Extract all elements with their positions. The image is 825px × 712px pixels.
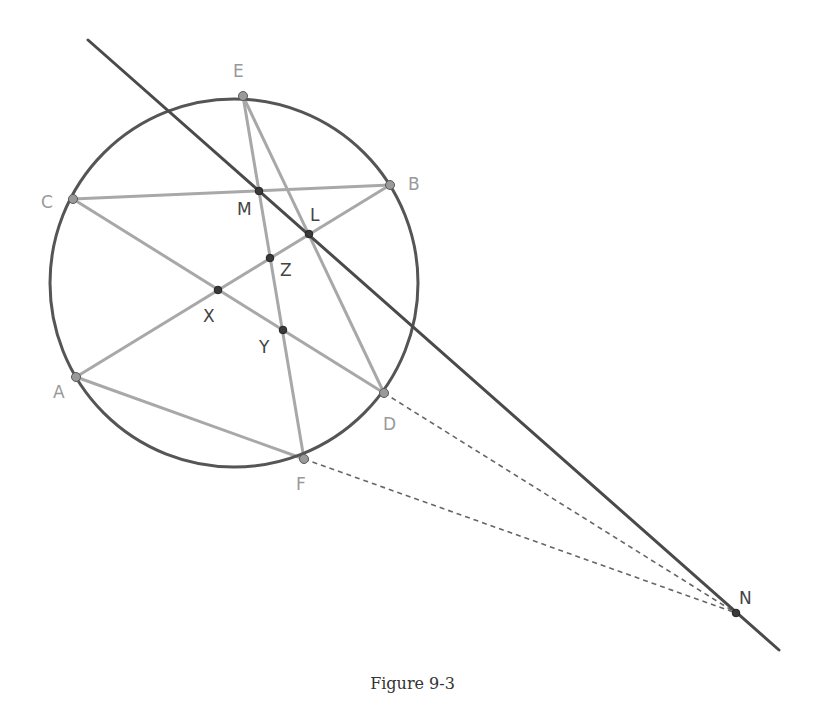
figure-caption: Figure 9-3	[0, 674, 825, 693]
label-X: X	[203, 306, 215, 326]
dashed-segment-DN	[384, 393, 736, 613]
line-MLN	[88, 40, 779, 650]
dashed-segments-group	[304, 393, 736, 613]
label-N: N	[739, 588, 752, 608]
dashed-segment-FN	[304, 459, 736, 613]
label-B: B	[408, 174, 420, 194]
point-D	[380, 389, 389, 398]
point-L	[305, 230, 313, 238]
geometry-figure: EBCMLZXYADFN	[0, 0, 825, 712]
label-A: A	[53, 382, 65, 402]
point-B	[386, 181, 395, 190]
point-N	[732, 609, 740, 617]
label-C: C	[41, 192, 53, 212]
point-X	[214, 286, 222, 294]
chords-group	[73, 96, 390, 459]
point-Y	[279, 326, 287, 334]
point-E	[239, 92, 248, 101]
point-F	[300, 455, 309, 464]
chord-AB	[76, 185, 390, 377]
label-M: M	[237, 199, 252, 219]
chord-EF	[243, 96, 304, 459]
chord-CB	[73, 185, 390, 199]
point-C	[69, 195, 78, 204]
label-E: E	[233, 61, 244, 81]
label-D: D	[383, 414, 396, 434]
point-Z	[266, 254, 274, 262]
point-A	[72, 373, 81, 382]
label-L: L	[310, 205, 320, 225]
label-Y: Y	[258, 337, 270, 357]
point-M	[255, 187, 263, 195]
label-F: F	[296, 474, 306, 494]
label-Z: Z	[280, 260, 292, 280]
